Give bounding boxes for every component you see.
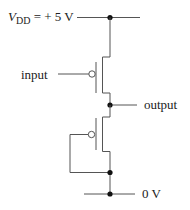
vdd-label: VDD = + 5 V bbox=[8, 9, 74, 26]
output-label: output bbox=[144, 97, 178, 112]
input-label: input bbox=[21, 67, 48, 82]
transistor-m2 bbox=[70, 105, 113, 194]
m2-gate-loop bbox=[70, 135, 110, 173]
vdd-rail bbox=[77, 15, 140, 20]
ground-rail bbox=[84, 191, 135, 196]
m2-gate-bubble-icon bbox=[88, 131, 94, 137]
m1-gate-bubble-icon bbox=[89, 71, 95, 77]
gate-tie-node-dot bbox=[107, 170, 112, 175]
ground-label: 0 V bbox=[142, 186, 162, 201]
circuit-diagram: VDD = + 5 V input output 0 V bbox=[0, 0, 190, 210]
output-node bbox=[107, 102, 137, 107]
transistor-m1 bbox=[58, 18, 110, 106]
ground-node-dot bbox=[107, 191, 112, 196]
